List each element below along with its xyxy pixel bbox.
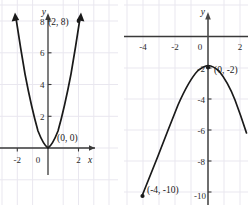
right-chart-label-point-neg4-neg10: (-4, -10) xyxy=(147,185,179,196)
right-chart-ytick-neg8: -8 xyxy=(198,157,206,167)
left-chart-label-point-0-0: (0, 0) xyxy=(57,133,78,144)
right-chart-ytick-neg2: -2 xyxy=(198,64,206,74)
left-chart-point-2-8-marker xyxy=(77,19,81,23)
figure-canvas: 8 6 4 2 0 -2 2 y x (2, 8) (0, 0) xyxy=(0,0,248,205)
left-chart-ytick-2: 2 xyxy=(40,112,45,122)
right-chart-ytick-neg4: -4 xyxy=(198,95,206,105)
right-chart-point-neg4-neg10-marker xyxy=(140,194,144,198)
right-chart-xtick-neg4: -4 xyxy=(139,42,147,52)
left-chart-ytick-4: 4 xyxy=(40,80,45,90)
right-chart-point-0-neg2-marker xyxy=(206,65,210,69)
left-chart-ytick-8: 8 xyxy=(40,17,45,27)
left-chart-xtick-neg2: -2 xyxy=(14,155,22,165)
two-parabola-figure: 8 6 4 2 0 -2 2 y x (2, 8) (0, 0) xyxy=(0,0,248,205)
right-chart-xtick-neg2: -2 xyxy=(171,42,179,52)
left-chart-x-axis-name: x xyxy=(87,155,93,165)
left-chart-xtick-2: 2 xyxy=(76,155,81,165)
left-chart-origin-label: 0 xyxy=(36,155,41,165)
left-chart-label-point-2-8: (2, 8) xyxy=(48,17,69,28)
right-chart-ytick-neg10: -10 xyxy=(194,191,206,201)
left-chart-y-axis-name: y xyxy=(41,7,47,17)
right-chart-xtick-2: 2 xyxy=(238,42,243,52)
left-chart-ytick-6: 6 xyxy=(40,48,45,58)
right-chart-xtick-0: 0 xyxy=(198,42,203,52)
right-chart-label-point-0-neg2: (0, -2) xyxy=(214,65,238,76)
right-chart-y-axis-name: y xyxy=(200,7,206,17)
right-chart-ytick-neg6: -6 xyxy=(198,126,206,136)
